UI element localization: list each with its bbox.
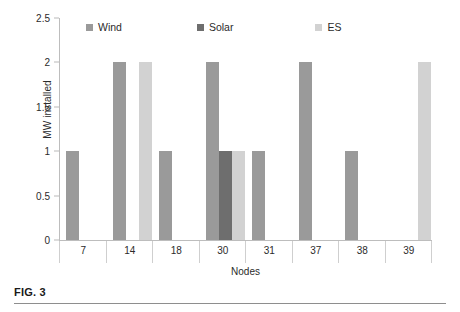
legend-item-es[interactable]: ES (315, 21, 341, 33)
y-axis-tick-label: 0 (22, 235, 50, 246)
category-group (200, 18, 247, 240)
x-axis-tick-label: 7 (80, 245, 86, 256)
bar-wind-31 (252, 151, 265, 240)
category-group (107, 18, 154, 240)
category-group (339, 18, 386, 240)
category-group (246, 18, 293, 240)
x-axis-tick-label: 30 (217, 245, 228, 256)
category-separator (292, 241, 293, 263)
legend-swatch-es (315, 24, 322, 31)
x-axis-tick-label: 31 (264, 245, 275, 256)
x-axis-tick-label: 37 (310, 245, 321, 256)
figure-caption: FIG. 3 (14, 286, 46, 298)
bar-wind-37 (299, 62, 312, 240)
y-axis-tick-label: 1 (22, 146, 50, 157)
caption-divider (14, 303, 446, 304)
bar-es-39 (418, 62, 431, 240)
y-axis-tick-label: 2 (22, 57, 50, 68)
bar-wind-7 (66, 151, 79, 240)
legend-swatch-wind (86, 24, 93, 31)
category-separator (152, 241, 153, 263)
plot-area (60, 18, 432, 240)
y-axis-tick-label: 1.5 (22, 101, 50, 112)
x-axis-tick-label: 14 (124, 245, 135, 256)
legend-item-wind[interactable]: Wind (86, 21, 122, 33)
category-group (293, 18, 340, 240)
category-group (60, 18, 107, 240)
bar-wind-30 (206, 62, 219, 240)
legend-item-solar[interactable]: Solar (197, 21, 234, 33)
legend-swatch-solar (197, 24, 204, 31)
category-separator (385, 241, 386, 263)
legend-label: ES (327, 21, 341, 33)
category-separator (338, 241, 339, 263)
category-separator (199, 241, 200, 263)
bar-es-30 (232, 151, 245, 240)
x-axis-label: Nodes (59, 266, 432, 277)
bar-wind-38 (345, 151, 358, 240)
category-group (386, 18, 433, 240)
category-separator (431, 241, 432, 263)
bar-wind-14 (113, 62, 126, 240)
category-separator (245, 241, 246, 263)
y-axis-tick-labels: 00.511.522.5 (22, 18, 50, 240)
legend-label: Wind (98, 21, 122, 33)
category-axis-band: 714183031373839 (59, 241, 432, 263)
bar-wind-18 (159, 151, 172, 240)
y-axis-tick-label: 0.5 (22, 190, 50, 201)
category-separator (59, 241, 60, 263)
x-axis-tick-label: 18 (171, 245, 182, 256)
figure-3: MW installed 00.511.522.5 71418303137383… (0, 0, 460, 312)
bar-chart: MW installed 00.511.522.5 71418303137383… (0, 0, 460, 268)
category-group (153, 18, 200, 240)
x-axis-tick-label: 39 (403, 245, 414, 256)
legend-label: Solar (209, 21, 234, 33)
bar-solar-30 (219, 151, 232, 240)
category-separator (106, 241, 107, 263)
chart-legend: WindSolarES (86, 21, 341, 33)
x-axis-tick-label: 38 (357, 245, 368, 256)
bar-es-14 (139, 62, 152, 240)
y-axis-tick-label: 2.5 (22, 13, 50, 24)
